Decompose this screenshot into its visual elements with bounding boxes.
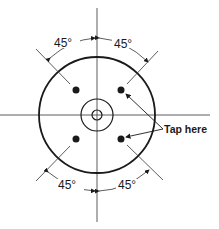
hole-bottom-right — [118, 136, 125, 143]
drilling-template-diagram: 45° 45° 45° 45° Tap here — [0, 0, 219, 229]
angle-label-top-left: 45° — [54, 36, 72, 50]
angle-label-bottom-left: 45° — [58, 178, 76, 192]
angle-label-top-right: 45° — [114, 37, 132, 51]
hole-bottom-left — [73, 136, 80, 143]
hole-top-right — [118, 87, 125, 94]
angle-label-bottom-right: 45° — [118, 178, 136, 192]
callout-leader-top — [126, 94, 163, 129]
hole-top-left — [73, 87, 80, 94]
radial-line-bottom-right — [127, 145, 163, 180]
callout-leader-bottom — [126, 129, 163, 137]
callout-tap-here: Tap here — [164, 123, 207, 135]
